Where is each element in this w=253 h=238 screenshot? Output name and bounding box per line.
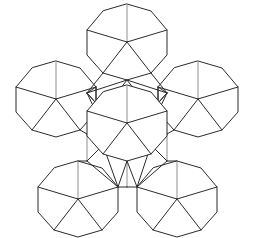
decagon-upper-right [158,61,238,137]
decagon-upper-left [16,61,96,137]
decagon-center [87,85,167,161]
decagon-lower-right [137,161,217,237]
decagon-top [87,4,167,80]
polyhedron-net-figure [0,0,253,238]
decagon-lower-left [38,161,118,237]
